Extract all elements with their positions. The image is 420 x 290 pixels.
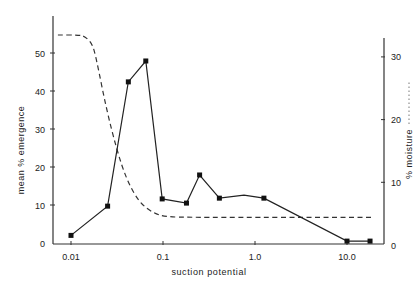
emergence-marker xyxy=(261,196,266,201)
y-tick-label-left: 0 xyxy=(40,239,45,249)
y-tick-label-left: 30 xyxy=(35,125,45,135)
emergence-marker xyxy=(160,196,165,201)
emergence-marker xyxy=(126,79,131,84)
x-tick-label: 0.1 xyxy=(157,252,170,262)
y-tick-label-left: 20 xyxy=(35,163,45,173)
y-tick-label-left: 50 xyxy=(35,49,45,59)
x-axis-label: suction potential xyxy=(171,267,246,277)
x-tick-label: 1.0 xyxy=(249,252,262,262)
emergence-marker xyxy=(217,196,222,201)
y-tick-label-left: 10 xyxy=(35,201,45,211)
chart: 0102030405001020300.010.11.010.0 suction… xyxy=(0,0,420,290)
y-axis-label-right-group: % moisture xyxy=(404,80,414,179)
y-axis-label-left: mean % emergence xyxy=(16,106,26,195)
y-tick-label-right: 0 xyxy=(391,241,396,251)
emergence-marker xyxy=(368,239,373,244)
emergence-marker xyxy=(69,233,74,238)
moisture-series xyxy=(58,35,372,217)
y-tick-label-right: 30 xyxy=(391,52,401,62)
emergence-line xyxy=(71,61,370,241)
y-tick-label-right: 20 xyxy=(391,115,401,125)
emergence-marker xyxy=(105,204,110,209)
x-tick-label: 10.0 xyxy=(338,252,356,262)
x-tick-label: 0.01 xyxy=(62,252,80,262)
emergence-marker xyxy=(143,58,148,63)
moisture-line xyxy=(58,35,372,217)
axes: 0102030405001020300.010.11.010.0 xyxy=(35,16,401,262)
emergence-marker xyxy=(345,239,350,244)
emergence-marker xyxy=(197,172,202,177)
y-tick-label-right: 10 xyxy=(391,178,401,188)
y-tick-label-left: 40 xyxy=(35,87,45,97)
emergence-series xyxy=(69,58,373,243)
emergence-marker xyxy=(184,201,189,206)
y-axis-label-right: % moisture xyxy=(404,129,414,179)
